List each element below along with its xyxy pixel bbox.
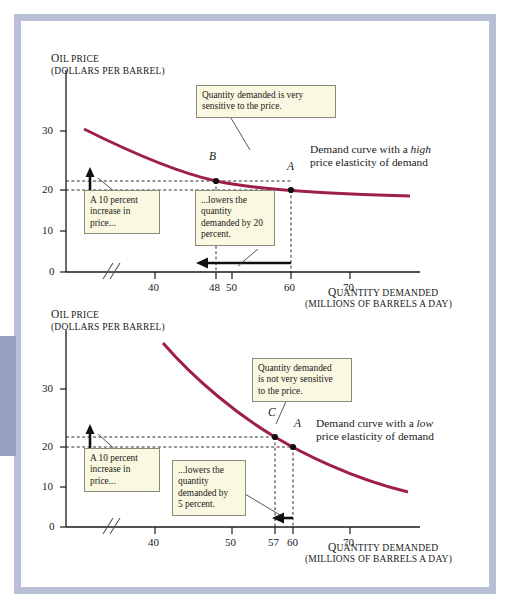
callout-line: to the price.	[258, 386, 346, 397]
callout-line: price...	[90, 218, 154, 229]
top-quantity-decrease-callout: ...lowers the quantity demanded by 20 pe…	[195, 190, 275, 246]
bottom-point-label-C: C	[268, 406, 276, 418]
top-ytick-30: 30	[42, 124, 53, 136]
top-ytick-10: 10	[42, 224, 53, 236]
bottom-curve-label: Demand curve with a low price elasticity…	[316, 417, 466, 444]
top-xtick-48: 48	[209, 281, 220, 293]
curve-label-text2: price elasticity of demand	[310, 156, 428, 168]
bottom-ytick-20: 20	[42, 440, 53, 452]
bottom-point-label-A: A	[294, 417, 301, 429]
callout-line: quantity	[201, 206, 269, 217]
callout-line: demanded by	[178, 488, 240, 499]
callout-line: A 10 percent	[90, 195, 154, 206]
top-curve-label: Demand curve with a high price elasticit…	[310, 143, 460, 170]
top-xtick-60: 60	[284, 281, 295, 293]
callout-line: percent.	[201, 229, 269, 240]
callout-line: price...	[90, 476, 154, 487]
top-xtick-50: 50	[226, 281, 237, 293]
bottom-ytick-30: 30	[42, 382, 53, 394]
callout-line: is not very sensitive	[258, 374, 346, 385]
bottom-y-axis-title-line2: (DOLLARS PER BARREL)	[51, 322, 165, 332]
callout-line: quantity	[178, 476, 240, 487]
bottom-x-axis-title-line2: (MILLIONS OF BARRELS A DAY)	[305, 554, 452, 564]
figure-page: OOil priceIL PRICE (DOLLARS PER BARREL) …	[0, 0, 510, 608]
callout-line: sensitive to the price.	[202, 101, 330, 112]
bottom-y-axis-title-line1: OIL PRICE	[51, 308, 99, 320]
top-ytick-0: 0	[49, 265, 55, 277]
curve-label-text1: Demand curve with a	[310, 143, 411, 155]
callout-line: Quantity demanded	[258, 363, 346, 374]
bottom-sensitivity-callout: Quantity demanded is not very sensitive …	[252, 358, 352, 402]
curve-label-text1: Demand curve with a	[316, 417, 417, 429]
curve-label-emphasis: high	[411, 143, 431, 155]
curve-label-text2: price elasticity of demand	[316, 430, 434, 442]
top-point-label-A: A	[287, 160, 294, 172]
callout-line: increase in	[90, 206, 154, 217]
top-y-axis-title-line1: OOil priceIL PRICE	[51, 52, 99, 64]
bottom-ytick-10: 10	[42, 480, 53, 492]
top-ytick-20: 20	[42, 183, 53, 195]
curve-label-emphasis: low	[417, 417, 433, 429]
bottom-xtick-57: 57	[268, 536, 279, 548]
callout-line: demanded by 20	[201, 218, 269, 229]
top-sensitivity-callout: Quantity demanded is very sensitive to t…	[196, 85, 336, 118]
bottom-x-axis-title-line1: QUANTITY DEMANDED	[328, 541, 438, 553]
bottom-xtick-60: 60	[287, 536, 298, 548]
bottom-ytick-0: 0	[49, 520, 55, 532]
top-point-label-B: B	[209, 150, 216, 162]
top-y-axis-title-line2: (DOLLARS PER BARREL)	[51, 66, 165, 76]
bottom-xtick-40: 40	[148, 536, 159, 548]
top-x-axis-title-line1: QUANTITY DEMANDED	[328, 286, 438, 298]
top-price-increase-callout: A 10 percent increase in price...	[84, 190, 160, 234]
callout-line: Quantity demanded is very	[202, 90, 330, 101]
top-xtick-40: 40	[148, 281, 159, 293]
callout-line: ...lowers the	[178, 465, 240, 476]
top-x-axis-title-line2: (MILLIONS OF BARRELS A DAY)	[305, 299, 452, 309]
bottom-xtick-50: 50	[225, 536, 236, 548]
callout-line: ...lowers the	[201, 195, 269, 206]
callout-line: increase in	[90, 464, 154, 475]
bottom-price-increase-callout: A 10 percent increase in price...	[84, 448, 160, 492]
bottom-quantity-decrease-callout: ...lowers the quantity demanded by 5 per…	[172, 460, 246, 516]
side-tab-marker	[0, 336, 16, 456]
callout-line: 5 percent.	[178, 499, 240, 510]
callout-line: A 10 percent	[90, 453, 154, 464]
